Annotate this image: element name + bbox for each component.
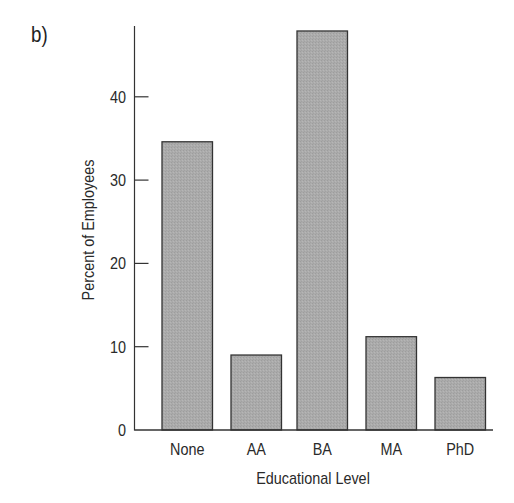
x-tick-label-phd: PhD (446, 440, 474, 458)
bar-phd (435, 378, 486, 430)
x-tick-label-ma: MA (380, 440, 402, 458)
x-tick-label-aa: AA (247, 440, 267, 458)
bar-chart: NoneAABAMAPhD010203040Percent of Employe… (0, 0, 514, 503)
y-tick-label-40: 40 (110, 88, 126, 106)
bars-group (162, 31, 486, 430)
x-axis-title: Educational Level (256, 469, 370, 487)
y-axis-title: Percent of Employees (79, 159, 97, 300)
x-tick-label-none: None (170, 440, 204, 458)
y-tick-label-0: 0 (118, 421, 126, 439)
bar-ba (297, 31, 348, 430)
bar-none (162, 142, 213, 430)
bar-aa (231, 355, 282, 430)
y-tick-label-10: 10 (110, 338, 126, 356)
y-tick-label-30: 30 (110, 171, 126, 189)
bar-ma (366, 337, 417, 430)
y-tick-label-20: 20 (110, 255, 126, 273)
x-tick-label-ba: BA (313, 440, 333, 458)
